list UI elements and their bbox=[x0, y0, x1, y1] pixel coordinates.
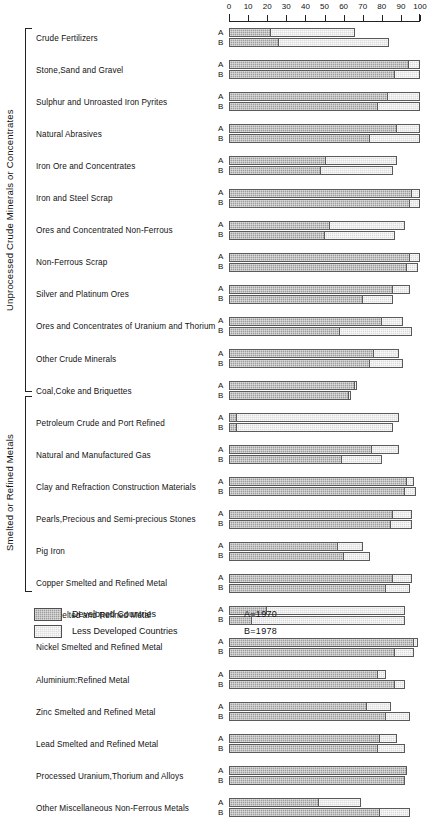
category-label: Sulphur and Unroasted Iron Pyrites bbox=[36, 98, 167, 107]
x-tick-mark bbox=[363, 15, 364, 21]
series-tag-b: B bbox=[218, 583, 228, 592]
bar-segment-less-developed bbox=[278, 38, 390, 47]
bar-segment-less-developed bbox=[406, 477, 415, 486]
bar-segment-less-developed bbox=[373, 349, 399, 358]
bar-segment-less-developed bbox=[348, 391, 351, 400]
category-label: Other Miscellaneous Non-Ferrous Metals bbox=[36, 804, 189, 813]
category-label: Silver and Platinum Ores bbox=[36, 290, 129, 299]
bar-track bbox=[229, 327, 420, 336]
bar-segment-less-developed bbox=[392, 574, 412, 583]
bar-segment-less-developed bbox=[392, 510, 412, 519]
legend-label: Less Developed Countries bbox=[72, 626, 178, 636]
series-tag-b: B bbox=[218, 326, 228, 335]
bar-segment-less-developed bbox=[366, 702, 392, 711]
bar-track bbox=[229, 680, 420, 689]
series-tag-a: A bbox=[218, 28, 228, 37]
x-tick-label: 90 bbox=[396, 2, 405, 11]
bar-segment-less-developed bbox=[236, 423, 394, 432]
bar-track bbox=[229, 808, 420, 817]
category-label: Petroleum Crude and Port Refined bbox=[36, 419, 165, 428]
chart-legend: Developed CountriesA=1970Less Developed … bbox=[0, 607, 434, 653]
bar-segment-less-developed bbox=[385, 584, 411, 593]
bar-segment-less-developed bbox=[343, 552, 371, 561]
series-tag-a: A bbox=[218, 92, 228, 101]
bar-track bbox=[229, 510, 420, 519]
x-tick-mark bbox=[305, 15, 306, 21]
bar-segment-developed bbox=[229, 359, 370, 368]
category-label: Natural and Manufactured Gas bbox=[36, 451, 151, 460]
series-tag-a: A bbox=[218, 477, 228, 486]
bar-track bbox=[229, 776, 420, 785]
series-tag-b: B bbox=[218, 423, 228, 432]
bar-segment-less-developed bbox=[404, 487, 416, 496]
bar-track bbox=[229, 477, 420, 486]
bar-segment-developed bbox=[229, 744, 378, 753]
bar-segment-developed bbox=[229, 798, 319, 807]
legend-swatch-developed bbox=[34, 608, 62, 621]
bar-track bbox=[229, 702, 420, 711]
bar-segment-developed bbox=[229, 776, 405, 785]
series-tag-b: B bbox=[218, 102, 228, 111]
bar-segment-less-developed bbox=[324, 231, 396, 240]
bar-segment-less-developed bbox=[381, 317, 403, 326]
bar-segment-developed bbox=[229, 574, 393, 583]
x-tick-label: 100 bbox=[413, 2, 426, 11]
x-tick-mark bbox=[382, 15, 383, 21]
bar-track bbox=[229, 102, 420, 111]
series-tag-b: B bbox=[218, 712, 228, 721]
series-tag-b: B bbox=[218, 134, 228, 143]
bar-track bbox=[229, 70, 420, 79]
bar-track bbox=[229, 423, 420, 432]
bar-segment-developed bbox=[229, 295, 363, 304]
bar-segment-developed bbox=[229, 477, 407, 486]
series-tag-a: A bbox=[218, 541, 228, 550]
category-label: Iron and Steel Scrap bbox=[36, 194, 113, 203]
category-label: Ores and Concentrates of Uranium and Tho… bbox=[36, 322, 215, 331]
bar-track bbox=[229, 670, 420, 679]
series-tag-a: A bbox=[218, 573, 228, 582]
bar-segment-developed bbox=[229, 189, 412, 198]
bar-track bbox=[229, 487, 420, 496]
bar-segment-less-developed bbox=[354, 381, 357, 390]
bar-track bbox=[229, 584, 420, 593]
bar-segment-developed bbox=[229, 584, 386, 593]
series-tag-b: B bbox=[218, 519, 228, 528]
category-label: Pearls,Precious and Semi-precious Stones bbox=[36, 515, 196, 524]
x-tick-label: 50 bbox=[320, 2, 329, 11]
series-tag-a: A bbox=[218, 124, 228, 133]
series-tag-b: B bbox=[218, 198, 228, 207]
bar-segment-less-developed bbox=[377, 670, 386, 679]
series-tag-b: B bbox=[218, 391, 228, 400]
bar-track bbox=[229, 455, 420, 464]
legend-swatch-less-developed bbox=[34, 625, 62, 638]
bar-segment-less-developed bbox=[236, 413, 399, 422]
bar-segment-developed bbox=[229, 808, 380, 817]
x-tick-label: 70 bbox=[358, 2, 367, 11]
bar-segment-less-developed bbox=[409, 199, 420, 208]
legend-note: B=1978 bbox=[244, 626, 277, 636]
bar-track bbox=[229, 734, 420, 743]
bar-track bbox=[229, 349, 420, 358]
bar-track bbox=[229, 285, 420, 294]
bar-segment-developed bbox=[229, 391, 349, 400]
bar-segment-developed bbox=[229, 60, 409, 69]
bar-segment-developed bbox=[229, 670, 378, 679]
bar-segment-less-developed bbox=[377, 744, 405, 753]
bar-track bbox=[229, 28, 420, 37]
bar-segment-less-developed bbox=[409, 253, 420, 262]
bar-segment-less-developed bbox=[394, 70, 420, 79]
series-tag-b: B bbox=[218, 551, 228, 560]
category-label: Aluminium:Refined Metal bbox=[36, 676, 129, 685]
series-tag-a: A bbox=[218, 734, 228, 743]
x-tick-mark bbox=[344, 15, 345, 21]
series-tag-a: A bbox=[218, 509, 228, 518]
category-label: Other Crude Minerals bbox=[36, 355, 116, 364]
bar-segment-developed bbox=[229, 28, 271, 37]
bar-segment-developed bbox=[229, 766, 407, 775]
bar-segment-developed bbox=[229, 134, 370, 143]
bar-track bbox=[229, 38, 420, 47]
bar-segment-developed bbox=[229, 455, 342, 464]
category-label: Natural Abrasives bbox=[36, 130, 102, 139]
bar-track bbox=[229, 124, 420, 133]
x-tick-mark bbox=[401, 15, 402, 21]
